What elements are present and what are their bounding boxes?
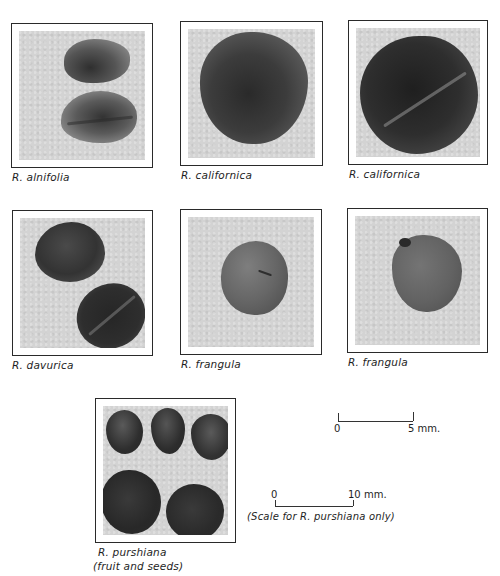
caption-californica-2: R. californica [349, 168, 420, 180]
photo-californica-1 [188, 29, 315, 158]
seed-hilum [399, 238, 411, 247]
caption-californica-1: R. californica [181, 169, 252, 181]
plate-californica-1 [180, 21, 323, 166]
photo-californica-2 [356, 28, 480, 157]
seed [151, 408, 185, 454]
photo-frangula-1 [188, 217, 314, 347]
caption-frangula-2: R. frangula [348, 356, 408, 368]
scale-line [338, 413, 413, 422]
scale-note: (Scale for R. purshiana only) [247, 511, 395, 522]
seed [360, 36, 478, 154]
photo-frangula-2 [355, 216, 480, 345]
seed [106, 410, 143, 454]
photo-alnifolia [19, 31, 145, 160]
plate-purshiana [95, 398, 236, 543]
plate-alnifolia [11, 23, 153, 168]
seed-fruit [166, 484, 224, 535]
seed [35, 222, 105, 282]
scale-label-5mm: 5 mm. [408, 423, 440, 434]
seed [200, 32, 308, 144]
seed [191, 414, 228, 460]
scale-line [275, 500, 353, 507]
seed-fruit [103, 470, 161, 534]
scale-label-zero: 0 [334, 423, 340, 434]
scale-label-zero: 0 [271, 489, 277, 500]
plate-frangula-1 [180, 209, 322, 355]
photo-purshiana [103, 406, 228, 535]
plate-californica-2 [348, 20, 488, 165]
photo-davurica [20, 218, 145, 348]
scale-tick-right [413, 412, 414, 421]
seed [65, 271, 145, 348]
caption-purshiana-subtitle: (fruit and seeds) [93, 560, 183, 572]
seed [221, 241, 288, 315]
caption-purshiana: R. purshiana [98, 546, 167, 558]
caption-davurica: R. davurica [12, 359, 74, 371]
plate-frangula-2 [347, 208, 488, 353]
scale-label-10mm: 10 mm. [348, 489, 387, 500]
seed [64, 39, 130, 83]
scale-tick-right [353, 500, 354, 506]
caption-alnifolia: R. alnifolia [12, 171, 70, 183]
caption-frangula-1: R. frangula [181, 358, 241, 370]
plate-davurica [12, 210, 153, 356]
